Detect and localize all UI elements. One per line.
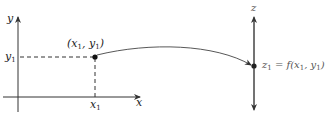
mapping-curve-arrow [97, 47, 251, 65]
x1-tick-label: x1 [90, 99, 101, 112]
point-x1-y1 [92, 54, 97, 59]
y1-tick-label: y1 [5, 51, 16, 64]
z-axis-label: z [251, 3, 256, 13]
z1-function-label: z1 = f(x1, y1) [262, 60, 325, 72]
x-axis-label: x [136, 97, 142, 108]
point-label: (x1, y1) [67, 38, 104, 51]
y-axis-label: y [7, 13, 13, 24]
point-z1 [251, 63, 256, 68]
